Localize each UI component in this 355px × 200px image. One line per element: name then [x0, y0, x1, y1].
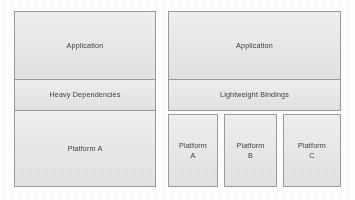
right-application-box: Application	[168, 11, 341, 80]
left-application-label: Application	[67, 41, 104, 51]
left-platform-a-box: Platform A	[14, 110, 156, 187]
right-platform-a-box: Platform A	[168, 114, 218, 187]
right-platform-b-label: Platform B	[237, 141, 265, 160]
right-platform-b-box: Platform B	[224, 114, 277, 187]
left-platform-a-label: Platform A	[68, 144, 103, 154]
right-platform-c-label: Platform C	[298, 141, 326, 160]
right-application-label: Application	[236, 41, 273, 51]
right-platform-a-label: Platform A	[179, 141, 207, 160]
left-heavy-dependencies-box: Heavy Dependencies	[14, 79, 156, 111]
left-application-box: Application	[14, 11, 156, 80]
right-platform-c-box: Platform C	[283, 114, 341, 187]
right-lightweight-bindings-label: Lightweight Bindings	[220, 90, 289, 100]
left-heavy-dependencies-label: Heavy Dependencies	[49, 90, 120, 100]
right-lightweight-bindings-box: Lightweight Bindings	[168, 79, 341, 111]
diagram-canvas: Application Heavy Dependencies Platform …	[0, 0, 355, 200]
